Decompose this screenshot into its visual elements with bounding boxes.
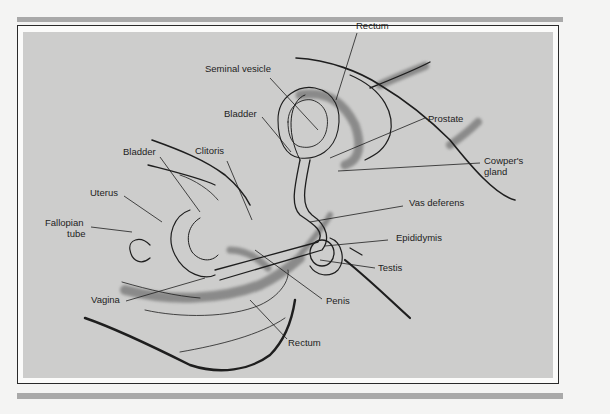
label-bladder-female: Bladder xyxy=(123,146,156,157)
label-penis: Penis xyxy=(326,295,350,306)
label-cowpers-gland-line1: Cowper's xyxy=(484,155,523,166)
label-fallopian-tube-line1: Fallopian xyxy=(45,217,84,228)
label-cowpers-gland-line2: gland xyxy=(484,166,507,177)
label-rectum-bottom: Rectum xyxy=(288,337,321,348)
label-fallopian-tube-line2: tube xyxy=(67,228,86,239)
label-uterus: Uterus xyxy=(90,187,118,198)
label-rectum-top: Rectum xyxy=(356,20,389,31)
bottom-rule-bar xyxy=(17,393,563,399)
label-clitoris: Clitoris xyxy=(195,145,224,156)
label-seminal-vesicle: Seminal vesicle xyxy=(205,63,271,74)
label-vas-deferens: Vas deferens xyxy=(409,197,464,208)
label-testis: Testis xyxy=(378,262,402,273)
label-bladder-male: Bladder xyxy=(224,108,257,119)
anatomy-illustration xyxy=(0,0,610,414)
label-vagina: Vagina xyxy=(91,294,120,305)
label-prostate: Prostate xyxy=(428,113,463,124)
label-epididymis: Epididymis xyxy=(396,232,442,243)
